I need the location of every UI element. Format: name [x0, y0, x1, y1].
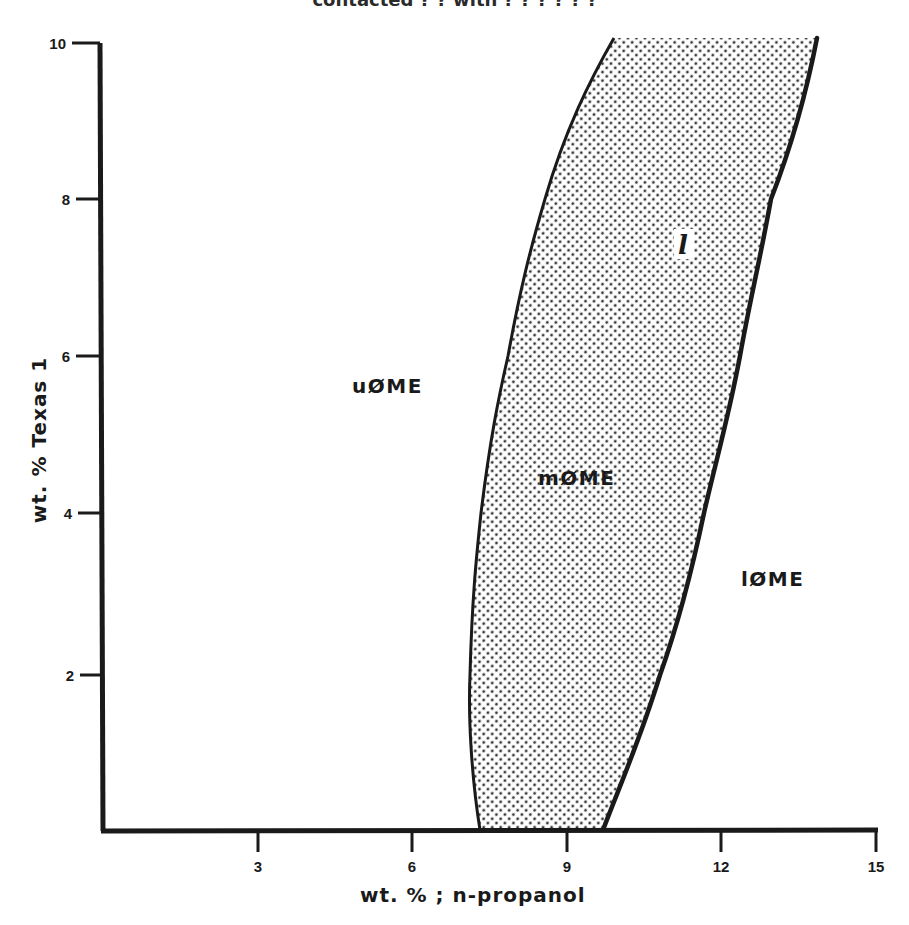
- x-tick-label-15: 15: [868, 858, 885, 875]
- x-tick-label-9: 9: [563, 858, 571, 875]
- x-axis-title: wt. % ; n-propanol: [360, 883, 586, 907]
- y-axis-title: wt. % Texas 1: [27, 357, 51, 523]
- phase-diagram: contacted ? ? with ? ? ? ? ? ? 10 8 6 4 …: [0, 0, 909, 925]
- x-axis: [101, 830, 878, 831]
- region-label-upper-microemulsion: uØME: [352, 374, 423, 398]
- figure-title-clipped: contacted ? ? with ? ? ? ? ? ?: [312, 0, 597, 10]
- x-tick-label-12: 12: [713, 858, 730, 875]
- y-tick-label-4: 4: [64, 505, 73, 522]
- y-ticks: [72, 43, 102, 675]
- region-label-middle-microemulsion: mØME: [538, 466, 615, 490]
- y-axis: [100, 43, 103, 831]
- y-tick-label-2: 2: [66, 667, 74, 684]
- region-label-lower-microemulsion: lØME: [741, 567, 804, 591]
- x-tick-label-3: 3: [254, 858, 262, 875]
- y-tick-label-10: 10: [49, 35, 66, 52]
- three-phase-region: [469, 38, 817, 830]
- x-tick-label-6: 6: [408, 858, 416, 875]
- x-ticks: [258, 830, 876, 852]
- y-tick-label-8: 8: [62, 191, 70, 208]
- region-label-l: l: [678, 230, 688, 260]
- y-tick-label-6: 6: [62, 348, 70, 365]
